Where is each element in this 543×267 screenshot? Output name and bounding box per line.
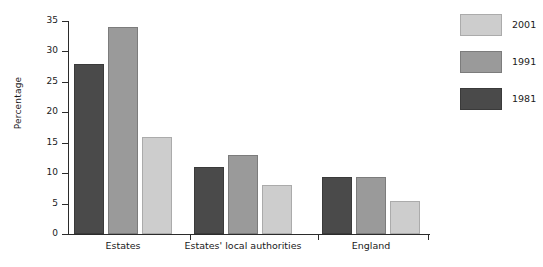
legend-swatch-1981 [460,88,502,110]
y-tick-label-5: 5 [52,198,58,208]
legend-item-1981: 1981 [460,88,540,110]
legend-label-1981: 1981 [512,93,536,104]
legend-swatch-2001 [460,14,502,36]
y-tick-35: 35 [62,21,68,22]
plot-area: 05101520253035 EstatesEstates' local aut… [68,21,430,234]
bar-1981-group-2 [194,167,224,234]
y-tick-label-35: 35 [47,15,58,25]
y-tick-20: 20 [62,112,68,113]
y-axis-line [68,21,69,234]
legend-item-1991: 1991 [460,51,540,73]
bar-1981-group-3 [322,177,352,234]
bar-chart: Percentage 05101520253035 EstatesEstates… [0,0,543,267]
y-tick-label-10: 10 [47,167,58,177]
y-tick-label-25: 25 [47,76,58,86]
x-axis-line [68,234,430,235]
y-tick-label-30: 30 [47,45,58,55]
y-tick-10: 10 [62,173,68,174]
y-tick-25: 25 [62,82,68,83]
bar-1991-group-3 [356,177,386,234]
group-label-3: England [68,240,543,251]
y-axis-label: Percentage [13,58,23,148]
legend-label-2001: 2001 [512,19,536,30]
y-tick-0: 0 [62,234,68,235]
bar-2001-group-2 [262,185,292,234]
y-tick-label-0: 0 [52,228,58,238]
bar-1991-group-1 [108,27,138,234]
legend-swatch-1991 [460,51,502,73]
bar-2001-group-3 [390,201,420,234]
y-tick-label-20: 20 [47,106,58,116]
bar-1991-group-2 [228,155,258,234]
legend-item-2001: 2001 [460,14,540,36]
legend: 2001 1991 1981 [460,14,540,125]
y-tick-5: 5 [62,204,68,205]
y-tick-30: 30 [62,51,68,52]
y-tick-15: 15 [62,143,68,144]
bar-2001-group-1 [142,137,172,234]
bar-1981-group-1 [74,64,104,234]
y-tick-label-15: 15 [47,137,58,147]
legend-label-1991: 1991 [512,56,536,67]
